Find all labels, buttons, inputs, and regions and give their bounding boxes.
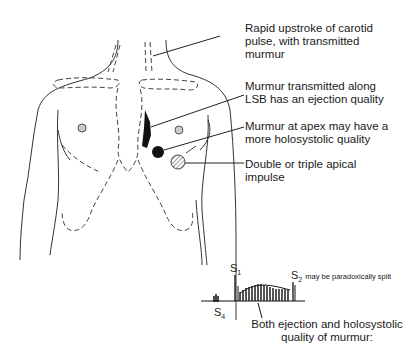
ribcage-right xyxy=(62,145,100,172)
leader-carotid xyxy=(153,36,220,56)
nipple-left xyxy=(175,126,183,134)
nipple-right xyxy=(78,124,86,132)
annotation-lsb: Murmur transmitted along LSB has an ejec… xyxy=(245,80,400,106)
caption-line-1: Both ejection and holosystolic xyxy=(247,318,404,331)
carotid-left xyxy=(145,42,146,72)
s1-label: S1 xyxy=(230,262,241,276)
s2-label: S2 may be paradoxically split xyxy=(291,269,391,283)
leader-caption xyxy=(258,303,262,318)
torso-outline-left xyxy=(20,40,118,260)
murmur-waveform xyxy=(240,284,290,301)
apex-murmur-dot xyxy=(152,146,164,158)
annotation-apex: Murmur at apex may have a more holosysto… xyxy=(245,120,400,146)
s2-note: may be paradoxically split xyxy=(305,272,391,281)
sternum xyxy=(116,88,142,172)
clavicle-left xyxy=(139,79,197,90)
annotation-impulse: Double or triple apical impulse xyxy=(245,158,375,184)
s4-spike xyxy=(214,294,218,302)
torso-outline-right xyxy=(166,40,236,320)
carotid-right xyxy=(108,45,116,72)
s4-label: S4 xyxy=(214,306,225,320)
lsb-murmur-marker xyxy=(142,110,151,148)
caption-line-2: quality of murmur: xyxy=(247,331,404,344)
apical-impulse-marker xyxy=(171,155,185,169)
phonocardiogram-caption: Both ejection and holosystolic quality o… xyxy=(247,318,404,344)
annotation-carotid: Rapid upstroke of carotid pulse, with tr… xyxy=(245,22,400,61)
